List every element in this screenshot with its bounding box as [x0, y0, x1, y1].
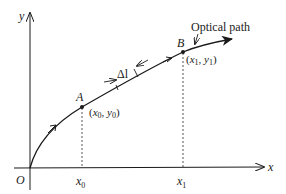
- optical-path-label: Optical path: [191, 20, 250, 34]
- point-b-marker: [181, 50, 185, 54]
- origin-label: O: [16, 173, 25, 187]
- delta-l-label: Δl: [117, 67, 129, 81]
- point-a-marker: [80, 105, 84, 109]
- delta-l-marker: Δl: [104, 60, 148, 90]
- optical-path-diagram: y x O A (x0, y0) B (x1, y1) x0 x1 Δl Opt…: [0, 0, 286, 194]
- x-axis-label: x: [267, 160, 274, 174]
- direction-arrow-icon: [48, 125, 56, 133]
- x0-tick-label: x0: [75, 174, 85, 190]
- direction-arrow-icon: [163, 57, 172, 62]
- x1-tick-label: x1: [176, 174, 186, 190]
- point-a-coords: (x0, y0): [89, 106, 120, 120]
- optical-path-pointer: [195, 34, 198, 44]
- y-axis: y: [18, 9, 30, 190]
- y-axis-label: y: [18, 9, 25, 23]
- point-a-label: A: [75, 90, 84, 104]
- x-axis: x: [14, 160, 274, 174]
- point-b-coords: (x1, y1): [186, 53, 217, 67]
- point-b-label: B: [177, 36, 185, 50]
